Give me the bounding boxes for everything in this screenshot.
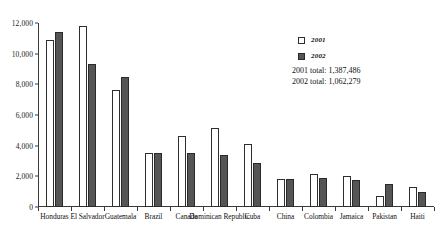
bar-2001-colombia [310, 174, 318, 207]
bar-2002-brazil [154, 153, 162, 207]
bar-2001-cuba [244, 144, 252, 207]
bar-group [409, 23, 426, 207]
bar-group [343, 23, 360, 207]
bar-group [46, 23, 63, 207]
bar-2002-pakistan [385, 184, 393, 207]
x-axis-tick-mark [269, 207, 270, 211]
bar-group [112, 23, 129, 207]
total-2001: 2001 total: 1,387,486 [292, 66, 360, 77]
legend-item-2001: 2001 [298, 34, 326, 46]
x-axis-tick-mark [137, 207, 138, 211]
bar-2001-dominican-republic [211, 128, 219, 207]
bar-2001-china [277, 179, 285, 207]
x-axis-label: Haiti [386, 213, 440, 222]
bar-2001-haiti [409, 187, 417, 207]
bar-group [211, 23, 228, 207]
legend-item-2002: 2002 [298, 50, 326, 62]
totals-annotation: 2001 total: 1,387,486 2002 total: 1,062,… [292, 66, 360, 87]
y-axis-tick-label: 2,000 [0, 172, 33, 181]
bar-group [277, 23, 294, 207]
bar-group [244, 23, 261, 207]
x-axis-tick-mark [203, 207, 204, 211]
x-axis-tick-mark [38, 207, 39, 211]
legend-label-2002: 2002 [311, 52, 326, 60]
x-axis-tick-mark [434, 207, 435, 211]
bar-group [376, 23, 393, 207]
bar-2002-el-salvador [88, 64, 96, 207]
bar-2001-el-salvador [79, 26, 87, 207]
bar-2001-jamaica [343, 176, 351, 207]
bar-2001-brazil [145, 153, 153, 207]
bar-2002-jamaica [352, 180, 360, 207]
bar-2001-pakistan [376, 196, 384, 207]
bar-2002-haiti [418, 192, 426, 207]
legend-swatch-2001 [298, 37, 305, 44]
x-axis-tick-mark [335, 207, 336, 211]
legend-label-2001: 2001 [311, 36, 326, 44]
y-axis-tick-label: 4,000 [0, 141, 33, 150]
bar-2002-colombia [319, 178, 327, 207]
bar-2001-guatemala [112, 90, 120, 207]
bar-2001-canada [178, 136, 186, 207]
bar-group [178, 23, 195, 207]
bar-group [145, 23, 162, 207]
x-axis-tick-mark [71, 207, 72, 211]
legend: 2001 2002 [298, 34, 326, 66]
bar-2002-china [286, 179, 294, 207]
x-axis-tick-mark [401, 207, 402, 211]
y-axis-tick-label: 6,000 [0, 111, 33, 120]
x-axis-tick-mark [368, 207, 369, 211]
x-axis-tick-mark [302, 207, 303, 211]
y-axis-tick-label: 12,000 [0, 19, 33, 28]
bar-2002-cuba [253, 163, 261, 207]
bar-2002-canada [187, 153, 195, 207]
bar-2001-honduras [46, 40, 54, 207]
y-axis-tick-label: 10,000 [0, 49, 33, 58]
y-axis-tick-label: 8,000 [0, 80, 33, 89]
bar-group [79, 23, 96, 207]
total-2002: 2002 total: 1,062,279 [292, 77, 360, 88]
bar-2002-dominican-republic [220, 155, 228, 207]
bar-chart: 02,0004,0006,0008,00010,00012,000 Hondur… [0, 0, 440, 245]
legend-swatch-2002 [298, 53, 305, 60]
plot-area [38, 23, 434, 207]
bar-2002-honduras [55, 32, 63, 207]
x-axis-tick-mark [236, 207, 237, 211]
x-axis-tick-mark [170, 207, 171, 211]
x-axis-tick-mark [104, 207, 105, 211]
y-axis-tick-label: 0 [0, 203, 33, 212]
bar-2002-guatemala [121, 77, 129, 207]
